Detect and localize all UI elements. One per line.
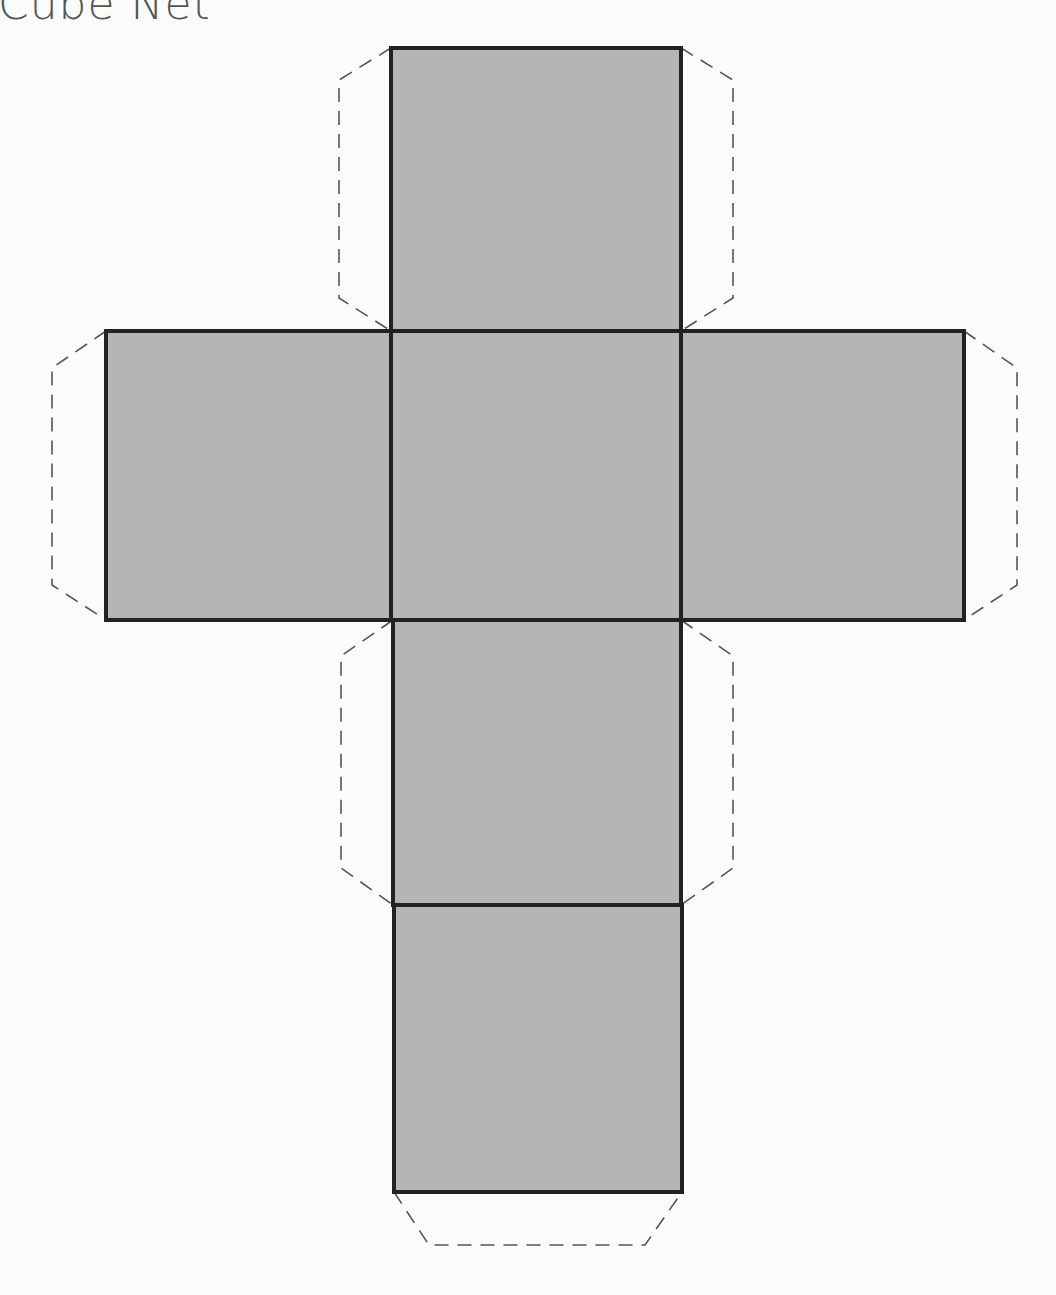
face-bottom — [394, 905, 682, 1192]
face-right — [681, 331, 964, 620]
top-left-tab — [339, 48, 391, 331]
top-right-tab — [681, 48, 733, 331]
cube-faces — [106, 48, 964, 1192]
right-tab — [964, 331, 1017, 620]
bottom-tab — [394, 1192, 682, 1245]
face-left — [106, 331, 391, 620]
face-lower — [393, 620, 681, 905]
lower-left-tab — [341, 620, 393, 905]
face-top — [391, 48, 681, 331]
left-tab — [52, 331, 106, 620]
face-center — [391, 331, 681, 620]
cube-net-diagram — [0, 0, 1056, 1295]
lower-right-tab — [681, 620, 733, 905]
